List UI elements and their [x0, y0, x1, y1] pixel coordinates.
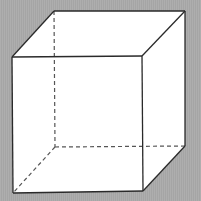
diagram-canvas: [0, 0, 201, 201]
cube-diagram: [0, 0, 201, 201]
